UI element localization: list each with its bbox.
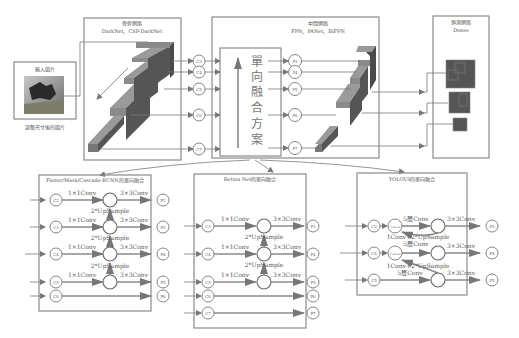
diagram-label: P2	[160, 198, 166, 203]
diagram-label: 向	[251, 69, 263, 84]
diagram-label: C3	[371, 224, 377, 229]
diagram-label: 3×3Conv	[273, 243, 302, 250]
diagram-label: Concat	[390, 252, 402, 256]
diagram-label: P5	[310, 280, 316, 285]
diagram-label: C7	[196, 147, 202, 152]
diagram-label: 3×3Conv	[120, 189, 149, 196]
downsample-arrow	[97, 68, 128, 99]
detector-architecture-diagram: 輸入圖片 調整尺寸後的圖片 骨幹網路 DarkNet、CSP-DarkNet	[0, 0, 519, 338]
input-caption: 調整尺寸後的圖片	[25, 124, 65, 131]
diagram-label: 合	[251, 100, 263, 115]
diagram-label: P3	[292, 59, 298, 64]
diagram-label: C3	[196, 59, 202, 64]
diagram-label: 5層Conv	[403, 215, 429, 223]
panel-retinanet-title: Retina Net的單向融合	[224, 176, 276, 183]
diagram-label: 3×3Conv	[447, 215, 476, 222]
diagram-label: 1×1Conv	[68, 189, 97, 196]
panel-rcnn-fusion: Faster/Mask/Cascade-RCNN的單向融合 C2 1×1Conv…	[25, 175, 169, 311]
diagram-label: P4	[310, 252, 316, 257]
diagram-label: P4	[292, 70, 298, 75]
diagram-label: P3	[160, 225, 166, 230]
diagram-label: C5	[371, 278, 377, 283]
diagram-label: C4	[205, 252, 211, 257]
diagram-label: P5	[292, 87, 298, 92]
diagram-label: 1×1Conv	[68, 216, 97, 223]
head-panel: 預測網路 Dense	[424, 16, 489, 158]
diagram-label: C6	[53, 294, 59, 299]
diagram-label: 2*UpSample	[91, 262, 130, 270]
diagram-label: P4	[489, 251, 495, 256]
panel-rcnn-title: Faster/Mask/Cascade-RCNN的單向融合	[46, 177, 143, 184]
input-title: 輸入圖片	[35, 66, 55, 73]
diagram-label: 1×1Conv	[68, 271, 97, 278]
diagram-label: P5	[160, 280, 166, 285]
panel-yolov3-title: YOLOV3的單向融合	[388, 176, 436, 183]
diagram-label: 5層Conv	[403, 240, 429, 248]
diagram-label: 案	[251, 132, 263, 147]
neck-staircase-graphic	[315, 46, 376, 152]
diagram-label: C6	[196, 113, 202, 118]
diagram-label: P3	[489, 224, 495, 229]
panel-yolov3-fusion: YOLOV3的單向融合 C3 Concat 5層Conv 3×3Conv P3 …	[340, 173, 498, 295]
head-subtitle: Dense	[453, 27, 469, 33]
neck-title: 中間網路	[308, 20, 328, 27]
backbone-staircase-graphic	[88, 42, 174, 152]
diagram-label: C6	[205, 294, 211, 299]
diagram-label: 1×1Conv	[221, 243, 250, 250]
diagram-label: 3×3Conv	[273, 271, 302, 278]
diagram-label: 2*UpSample	[91, 234, 130, 242]
backbone-panel: 骨幹網路 DarkNet、CSP-DarkNet	[84, 18, 193, 160]
diagram-label: P6	[292, 113, 298, 118]
diagram-label: P7	[310, 311, 316, 316]
diagram-label: 1×1Conv	[68, 243, 97, 250]
backbone-output-nodes: C3 C4 C5 C6 C7	[193, 55, 220, 155]
backbone-title: 骨幹網路	[122, 20, 142, 27]
diagram-label: 2*UpSample	[245, 233, 284, 241]
diagram-label: 單	[251, 55, 263, 69]
diagram-label: P3	[310, 224, 316, 229]
diagram-label: 2*UpSample	[91, 207, 130, 215]
diagram-label: C5	[196, 87, 202, 92]
diagram-label: Concat	[390, 225, 402, 229]
diagram-label: 5層Conv	[397, 269, 423, 277]
diagram-label: C3	[205, 224, 211, 229]
backbone-subtitle: DarkNet、CSP-DarkNet	[102, 28, 163, 34]
diagram-label: P6	[310, 294, 316, 299]
diagram-label: C2	[53, 198, 59, 203]
diagram-label: 3×3Conv	[120, 243, 149, 250]
diagram-label: 方	[251, 116, 263, 131]
head-title: 預測網路	[451, 19, 471, 26]
diagram-label: C5	[205, 280, 211, 285]
diagram-label: C7	[205, 311, 211, 316]
diagram-label: 3×3Conv	[120, 216, 149, 223]
panel-retinanet-fusion: Retina Net的單向融合 C3 1×1Conv 3×3Conv P3 C4…	[184, 174, 319, 328]
diagram-label: C4	[196, 70, 202, 75]
diagram-label: P4	[160, 252, 166, 257]
dense-map-small	[453, 118, 467, 131]
diagram-label: 3×3Conv	[447, 242, 476, 249]
diagram-label: C5	[53, 280, 59, 285]
diagram-label: C3	[53, 225, 59, 230]
diagram-label: P7	[292, 146, 298, 151]
neck-subtitle: FPN、PANet、BiFPN	[291, 28, 345, 34]
diagram-label: 3×3Conv	[120, 271, 149, 278]
neck-panel: 中間網路 FPN、PANet、BiFPN 單 向 融 合 方 案 P3 P4 P…	[212, 17, 424, 158]
diagram-label: 2*UpSample	[245, 261, 284, 269]
diagram-label: C4	[371, 251, 377, 256]
diagram-label: P6	[160, 294, 166, 299]
diagram-label: C4	[53, 252, 59, 257]
dense-map-large	[446, 60, 475, 88]
diagram-label: 3×3Conv	[273, 215, 302, 222]
diagram-label: 1×1Conv	[221, 271, 250, 278]
diagram-label: 3×3Conv	[447, 269, 476, 276]
diagram-label: 1×1Conv	[221, 215, 250, 222]
diagram-label: P5	[489, 278, 495, 283]
diagram-label: 融	[251, 85, 263, 99]
